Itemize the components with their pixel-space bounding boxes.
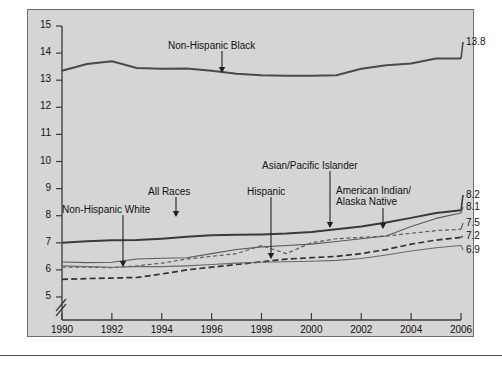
footer-divider	[0, 355, 502, 356]
y-tick-label: 5	[29, 290, 51, 301]
y-tick-label: 9	[29, 182, 51, 193]
leader-end-label-hispanic	[461, 236, 463, 237]
leader-end-label-black	[461, 42, 463, 59]
x-tick-label: 2000	[289, 324, 333, 335]
arrow-head-american-indian-alaska-native-2	[380, 223, 386, 229]
y-tick-label: 10	[29, 155, 51, 166]
y-tick-label: 14	[29, 46, 51, 57]
y-tick-label: 15	[29, 19, 51, 30]
axes	[62, 26, 461, 320]
y-tick-label: 12	[29, 100, 51, 111]
x-tick-label: 2006	[439, 324, 483, 335]
x-tick-label: 1992	[90, 324, 134, 335]
series-line-non-hispanic-black	[62, 59, 461, 76]
arrow-head-asian-pacific-islander	[327, 222, 333, 228]
y-tick-label: 8	[29, 209, 51, 220]
end-label-api: 7.5	[466, 217, 480, 228]
end-label-leaders	[461, 42, 463, 250]
end-label-hispanic: 7.2	[466, 230, 480, 241]
x-tick-label: 1990	[40, 324, 84, 335]
end-label-black: 13.8	[466, 36, 485, 47]
y-tick-label: 7	[29, 236, 51, 247]
series-line-hispanic	[62, 237, 461, 279]
x-tick-label: 1998	[240, 324, 284, 335]
chart-figure: Percent of Infants 15141312111098765 199…	[0, 0, 502, 373]
end-label-all-races: 8.1	[466, 201, 480, 212]
annotation-american-indian-alaska-native-2: Alaska Native	[336, 196, 397, 207]
y-tick-label: 6	[29, 263, 51, 274]
x-tick-label: 1994	[140, 324, 184, 335]
annotation-non-hispanic-white: Non-Hispanic White	[62, 204, 150, 215]
y-axis-ticks	[56, 26, 62, 297]
arrow-head-non-hispanic-white	[120, 261, 126, 267]
x-tick-label: 2002	[339, 324, 383, 335]
x-tick-label: 1996	[190, 324, 234, 335]
end-label-nhwhite: 6.9	[466, 244, 480, 255]
annotation-all-races: All Races	[148, 186, 190, 197]
arrow-head-hispanic	[268, 253, 274, 259]
leader-end-label-api	[461, 223, 463, 229]
x-axis-ticks	[62, 313, 461, 320]
annotation-asian-pacific-islander: Asian/Pacific Islander	[262, 160, 358, 171]
y-tick-label: 11	[29, 127, 51, 138]
annotation-non-hispanic-black: Non-Hispanic Black	[168, 40, 255, 51]
x-tick-label: 2004	[389, 324, 433, 335]
series-line-american-indian-alaska-native	[62, 210, 461, 243]
annotation-american-indian-alaska-native-1: American Indian/	[336, 185, 411, 196]
y-tick-label: 13	[29, 73, 51, 84]
leader-end-label-nhwhite	[461, 246, 463, 250]
arrow-head-all-races	[173, 211, 179, 217]
axis-break-icon	[56, 299, 66, 316]
end-label-aian: 8.2	[466, 189, 480, 200]
annotation-hispanic: Hispanic	[247, 186, 285, 197]
